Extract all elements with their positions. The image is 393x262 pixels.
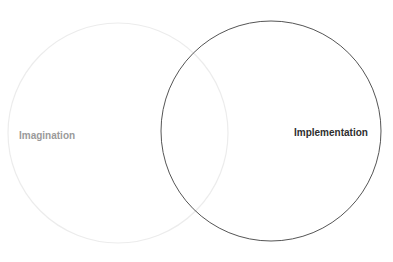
imagination-label: Imagination bbox=[19, 130, 75, 141]
implementation-label: Implementation bbox=[294, 127, 368, 138]
venn-diagram: Imagination Implementation bbox=[0, 0, 393, 262]
